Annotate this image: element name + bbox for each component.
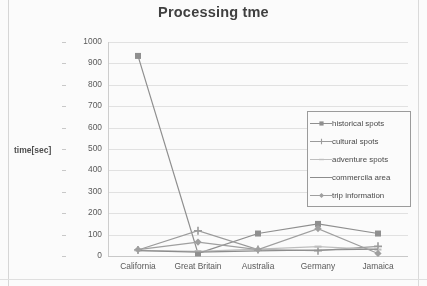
- y-tick-label: 500: [68, 143, 102, 153]
- y-tick-mark: [62, 192, 66, 193]
- x-tick-label: California: [120, 261, 155, 271]
- data-point: [314, 247, 322, 255]
- y-tick-label: 900: [68, 57, 102, 67]
- data-point: [319, 139, 325, 145]
- x-axis-tick-labels: CaliforniaGreat BritainAustraliaGermanyJ…: [108, 261, 408, 277]
- x-tick-label: Australia: [242, 261, 275, 271]
- y-tick-mark: [62, 149, 66, 150]
- legend-label: adventure spots: [332, 156, 388, 164]
- data-point: [319, 193, 324, 198]
- data-point: [319, 159, 324, 160]
- data-point: [254, 246, 261, 253]
- y-tick-mark: [62, 85, 66, 86]
- y-tick-mark: [62, 213, 66, 214]
- legend-item: commercila area: [310, 169, 408, 187]
- y-tick-mark: [62, 170, 66, 171]
- y-tick-label: 0: [68, 250, 102, 260]
- page-border-right: [418, 0, 419, 286]
- x-tick-label: Germany: [301, 261, 335, 271]
- legend-item: adventure spots: [310, 151, 408, 169]
- data-point: [135, 53, 141, 59]
- page-border-bottom: [0, 279, 427, 280]
- y-tick-mark: [62, 106, 66, 107]
- legend-label: commercila area: [332, 174, 390, 182]
- y-tick-label: 200: [68, 207, 102, 217]
- data-point: [374, 250, 381, 257]
- page-border-left: [8, 0, 9, 286]
- y-tick-label: 300: [68, 186, 102, 196]
- data-point: [134, 246, 141, 253]
- legend-marker-icon: [310, 172, 332, 184]
- data-point: [375, 231, 381, 237]
- legend-item: trip information: [310, 187, 408, 205]
- legend-label: historical spots: [332, 120, 384, 128]
- chart-screenshot: Processing tme time[sec] 010020030040050…: [0, 0, 427, 286]
- y-tick-label: 600: [68, 122, 102, 132]
- legend-marker-icon: [310, 118, 332, 130]
- x-tick-label: Jamaica: [362, 261, 393, 271]
- legend-label: cultural spots: [332, 138, 379, 146]
- legend-label: trip information: [332, 192, 384, 200]
- chart-legend: historical spotscultural spotsadventure …: [307, 111, 411, 207]
- y-tick-label: 100: [68, 229, 102, 239]
- legend-item: historical spots: [310, 115, 408, 133]
- y-axis-tick-labels: 01002003004005006007008009001000: [66, 42, 102, 256]
- y-tick-mark: [62, 256, 66, 257]
- y-axis-label: time[sec]: [14, 145, 72, 155]
- legend-marker-icon: [310, 190, 332, 202]
- y-tick-mark: [62, 63, 66, 64]
- data-point: [315, 246, 322, 248]
- y-tick-label: 400: [68, 164, 102, 174]
- y-tick-label: 800: [68, 79, 102, 89]
- x-tick-label: Great Britain: [174, 261, 221, 271]
- y-tick-mark: [62, 235, 66, 236]
- chart-title: Processing tme: [0, 4, 427, 20]
- legend-marker-icon: [310, 136, 332, 148]
- y-tick-label: 700: [68, 100, 102, 110]
- y-tick-label: 1000: [68, 36, 102, 46]
- data-point: [319, 121, 323, 125]
- data-point: [255, 231, 261, 237]
- legend-item: cultural spots: [310, 133, 408, 151]
- data-point: [194, 227, 202, 235]
- y-tick-mark: [62, 42, 66, 43]
- y-tick-mark: [62, 128, 66, 129]
- legend-marker-icon: [310, 154, 332, 166]
- x-axis-line: [108, 256, 408, 257]
